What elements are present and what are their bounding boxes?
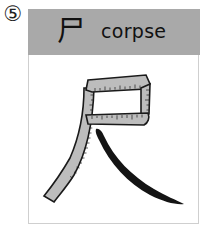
tape-middle-bar	[86, 113, 149, 125]
measuring-tape-illustration	[0, 0, 215, 236]
brush-stroke	[96, 129, 184, 204]
tape-left-leg	[44, 88, 94, 202]
